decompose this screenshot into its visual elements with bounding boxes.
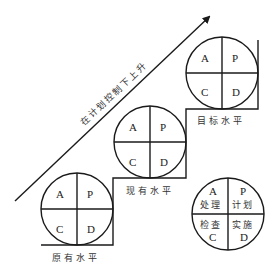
quadrant-c: C — [56, 223, 63, 235]
pdca-circle-target-level: A P C D — [186, 37, 258, 109]
legend-text-do: 实施 — [232, 219, 254, 230]
quadrant-p: P — [232, 52, 238, 64]
pdca-staircase-diagram: 在计划控制下上升 A P C D 原有水平 A P C D 现有水平 A P C… — [0, 0, 276, 273]
rising-arrow — [15, 17, 209, 201]
quadrant-a: A — [56, 188, 64, 200]
legend-text-check: 检查 — [200, 219, 222, 230]
pdca-legend-circle: A 处理 P 计划 检查 C 实施 D — [192, 178, 264, 250]
level-label-target: 目标水平 — [197, 115, 245, 126]
quadrant-c: C — [201, 86, 208, 98]
legend-letter-d: D — [240, 231, 248, 243]
legend-letter-c: C — [209, 231, 216, 243]
level-label-original: 原有水平 — [52, 252, 100, 263]
quadrant-d: D — [160, 156, 168, 168]
legend-text-plan: 计划 — [232, 199, 254, 210]
legend-letter-a: A — [209, 185, 217, 197]
arrow-label: 在计划控制下上升 — [78, 59, 149, 128]
pdca-circle-current-level: A P C D — [114, 106, 186, 178]
quadrant-d: D — [232, 86, 240, 98]
level-label-current: 现有水平 — [126, 185, 174, 196]
legend-text-handle: 处理 — [200, 199, 222, 210]
quadrant-d: D — [87, 223, 95, 235]
quadrant-c: C — [129, 156, 136, 168]
quadrant-p: P — [87, 188, 93, 200]
quadrant-a: A — [201, 52, 209, 64]
pdca-circle-original-level: A P C D — [41, 173, 113, 245]
legend-letter-p: P — [240, 185, 246, 197]
quadrant-a: A — [129, 121, 137, 133]
quadrant-p: P — [160, 121, 166, 133]
